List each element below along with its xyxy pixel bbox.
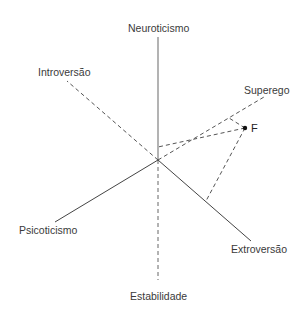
label-extroversao: Extroversão xyxy=(231,244,287,255)
projection-extroversao xyxy=(206,128,245,201)
label-psicoticismo: Psicoticismo xyxy=(19,225,77,236)
projection-neuroticismo xyxy=(158,128,245,147)
label-superego: Superego xyxy=(244,85,290,96)
axis-introversao xyxy=(67,81,158,160)
axes-canvas xyxy=(0,0,306,310)
label-introversao: Introversão xyxy=(38,67,91,78)
projection-superego xyxy=(229,118,245,128)
axis-superego xyxy=(158,97,264,160)
label-estabilidade: Estabilidade xyxy=(130,291,187,302)
label-neuroticismo: Neuroticismo xyxy=(128,23,189,34)
label-point-f: F xyxy=(251,123,258,134)
point-f-marker xyxy=(243,126,247,130)
axis-psicoticismo xyxy=(55,160,158,222)
personality-diagram: Neuroticismo Introversão Superego F Psic… xyxy=(0,0,306,310)
axis-extroversao xyxy=(158,160,251,241)
